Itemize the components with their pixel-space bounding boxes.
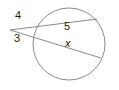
label-upper-external-segment: 4 — [15, 10, 21, 21]
label-lower-external-segment: 3 — [14, 33, 20, 44]
label-upper-chord: 5 — [64, 21, 70, 32]
label-lower-chord-unknown: x — [65, 38, 71, 49]
geometry-figure: 4 3 5 x — [0, 0, 119, 90]
